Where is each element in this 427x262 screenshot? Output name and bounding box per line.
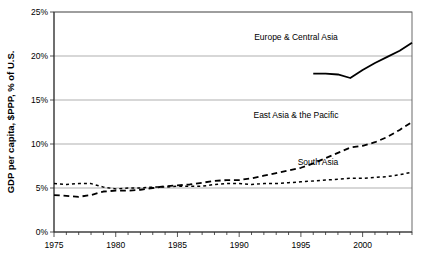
x-tick-label: 1975 xyxy=(45,240,64,250)
y-tick-label: 10% xyxy=(31,139,48,149)
x-tick-label: 1995 xyxy=(291,240,310,250)
gdp-per-capita-line-chart: 0%5%10%15%20%25% 19751980198519901995200… xyxy=(0,0,427,262)
y-tick-label: 25% xyxy=(31,7,48,17)
x-tick-label: 1980 xyxy=(106,240,125,250)
x-tick-label: 1985 xyxy=(168,240,187,250)
y-axis-title: GDP per capita, $PPP, % of U.S. xyxy=(5,51,16,194)
chart-background xyxy=(0,0,427,262)
series-label: South Asia xyxy=(298,157,339,167)
y-tick-label: 20% xyxy=(31,51,48,61)
y-tick-label: 5% xyxy=(36,183,49,193)
x-tick-label: 1990 xyxy=(230,240,249,250)
y-tick-label: 0% xyxy=(36,227,49,237)
series-label: East Asia & the Pacific xyxy=(253,110,339,120)
series-label: Europe & Central Asia xyxy=(254,32,338,42)
x-tick-label: 2000 xyxy=(353,240,372,250)
chart-container: 0%5%10%15%20%25% 19751980198519901995200… xyxy=(0,0,427,262)
y-tick-label: 15% xyxy=(31,95,48,105)
